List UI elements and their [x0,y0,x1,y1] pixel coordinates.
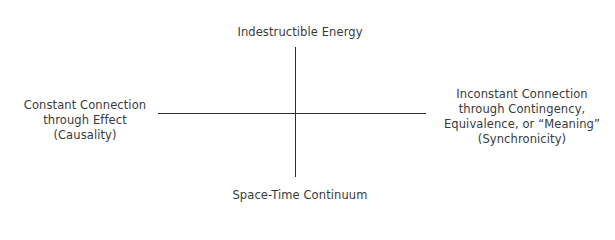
right-label-line-3: Equivalence, or “Meaning” [432,117,612,132]
bottom-axis-label: Space-Time Continuum [212,188,388,203]
left-label-line-1: Constant Connection [20,98,150,113]
right-label-line-1: Inconstant Connection [432,87,612,102]
horizontal-axis-line [158,113,426,114]
top-axis-label: Indestructible Energy [212,25,388,40]
vertical-axis-line [295,47,296,177]
right-axis-label: Inconstant Connection through Contingenc… [432,87,612,147]
left-label-line-2: through Effect [20,113,150,128]
right-label-line-2: through Contingency, [432,102,612,117]
bottom-axis-label-text: Space-Time Continuum [212,188,388,203]
top-axis-label-text: Indestructible Energy [212,25,388,40]
right-label-line-4: (Synchronicity) [432,132,612,147]
left-axis-label: Constant Connection through Effect (Caus… [20,98,150,143]
left-label-line-3: (Causality) [20,128,150,143]
